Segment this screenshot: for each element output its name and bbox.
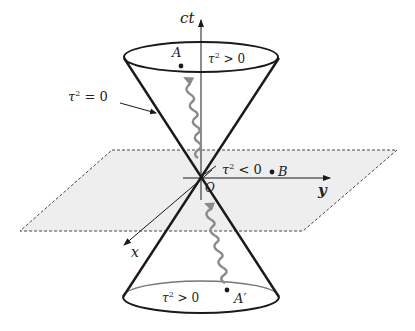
past-timelike-label: τ2 > 0 (162, 290, 199, 305)
past-cone-base-front (123, 297, 279, 313)
origin-label: O (205, 181, 215, 195)
y-axis-label: y (317, 181, 328, 199)
lightlike-label: τ2 = 0 (68, 89, 108, 104)
future-wavy-worldline (185, 78, 201, 158)
point-B (270, 170, 275, 175)
ct-axis-label: ct (180, 9, 195, 27)
x-axis-label: x (131, 244, 139, 260)
point-B-label: B (277, 164, 288, 179)
point-A-prime (225, 288, 230, 293)
point-A-label: A (171, 45, 181, 60)
point-A-prime-label: A′ (233, 291, 246, 306)
light-cone-diagram: ct y x O A A′ B τ2 > 0 τ2 > 0 τ2 < 0 τ2 … (0, 0, 415, 331)
lightlike-pointer-arrow (120, 103, 156, 113)
future-timelike-label: τ2 > 0 (208, 51, 245, 66)
spacelike-label: τ2 < 0 (222, 162, 262, 177)
point-A (179, 64, 184, 69)
past-cone-base-back (123, 281, 279, 297)
